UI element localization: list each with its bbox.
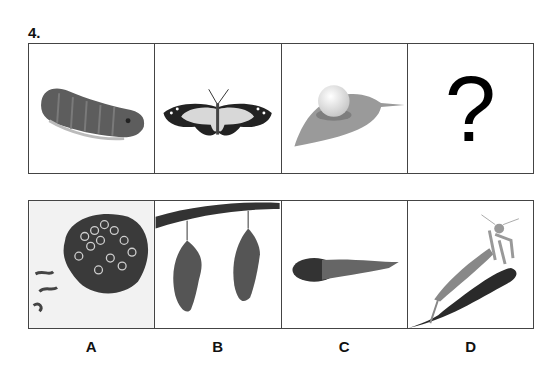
option-c-image[interactable] <box>282 201 408 328</box>
chrysalis-image <box>155 201 280 328</box>
option-b-image[interactable] <box>155 201 281 328</box>
sequence-cell-egg-on-leaf <box>282 44 408 173</box>
sequence-cell-caterpillar <box>29 44 155 173</box>
option-a-image[interactable] <box>29 201 155 328</box>
option-d-label[interactable]: D <box>408 338 535 355</box>
question-mark: ? <box>408 44 533 173</box>
option-c-label[interactable]: C <box>281 338 408 355</box>
option-b-label[interactable]: B <box>155 338 282 355</box>
option-a-label[interactable]: A <box>28 338 155 355</box>
options-row <box>28 200 534 329</box>
sequence-row: ? <box>28 43 534 174</box>
tadpole-image <box>282 201 407 328</box>
sequence-cell-unknown: ? <box>408 44 533 173</box>
option-d-image[interactable] <box>408 201 533 328</box>
caterpillar-image <box>29 44 154 173</box>
question-number: 4. <box>28 24 41 41</box>
butterfly-image <box>155 44 280 173</box>
sequence-cell-butterfly <box>155 44 281 173</box>
praying-mantis-image <box>408 201 533 328</box>
egg-on-leaf-image <box>282 44 407 173</box>
wasp-nest-image <box>29 201 154 328</box>
option-labels: A B C D <box>28 338 534 355</box>
